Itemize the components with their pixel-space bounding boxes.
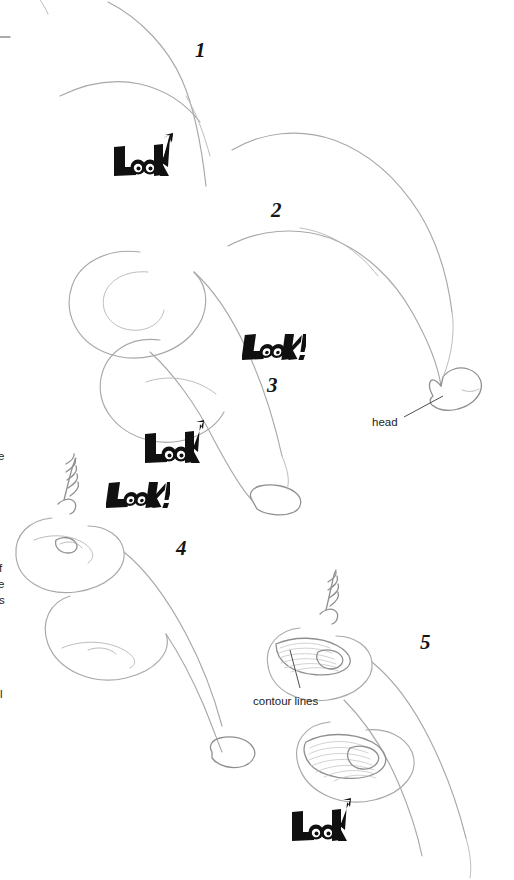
- look-watermark-logo: [242, 334, 306, 364]
- look-watermark-logo: [290, 798, 352, 846]
- margin-fragment: e: [0, 450, 4, 462]
- step-number-1: 1: [195, 38, 206, 63]
- margin-fragment: f: [0, 562, 2, 574]
- look-watermark-logo: [112, 133, 174, 181]
- tutorial-page: .pl { fill:none; stroke:#a8a8a8; stroke-…: [0, 0, 514, 880]
- step-number-3: 3: [267, 373, 278, 398]
- step-number-5: 5: [420, 630, 431, 655]
- callout-label-head: head: [372, 416, 398, 428]
- margin-fragment: s: [0, 594, 5, 606]
- look-watermark-logo: [143, 420, 205, 468]
- step-number-2: 2: [271, 198, 282, 223]
- head-leader-line: [404, 396, 443, 417]
- step3-sketch: [69, 251, 301, 515]
- step-number-4: 4: [176, 536, 187, 561]
- contour-lines-leader-line: [290, 650, 300, 688]
- callout-label-contour-lines: contour lines: [253, 695, 318, 707]
- margin-fragment: l: [0, 688, 3, 700]
- look-watermark-logo: [106, 482, 170, 512]
- margin-fragment: e: [0, 578, 4, 590]
- sketch-artwork: .pl { fill:none; stroke:#a8a8a8; stroke-…: [0, 0, 514, 880]
- step2-sketch: [228, 133, 481, 410]
